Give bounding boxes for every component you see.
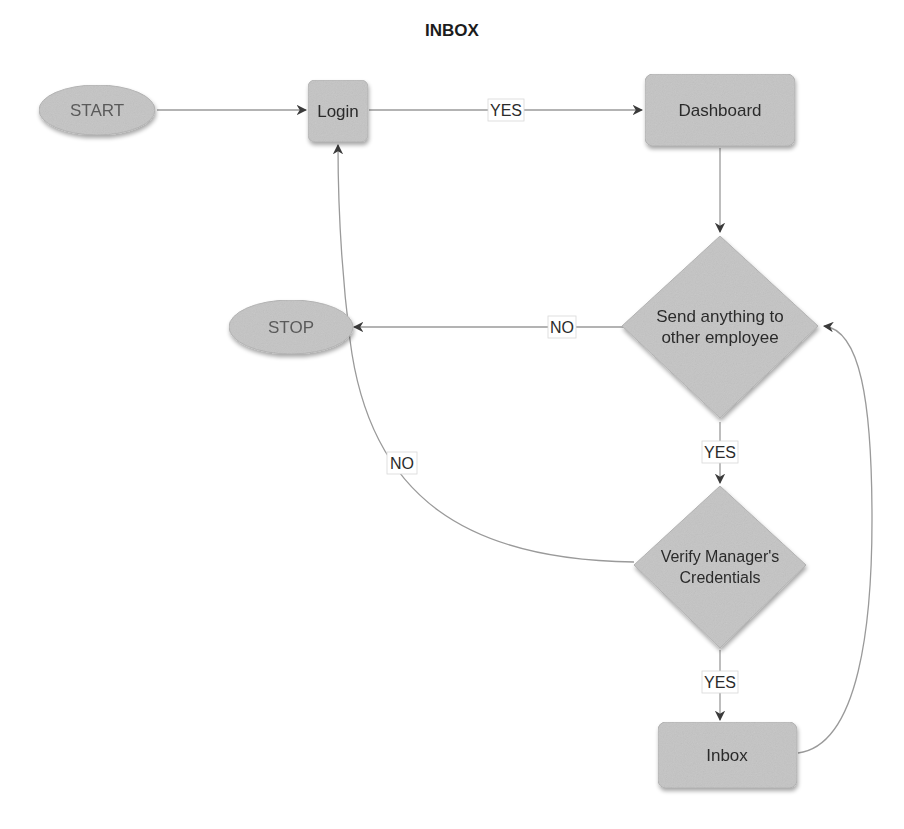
node-send-decision[interactable]: Send anything to other employee [622, 236, 818, 418]
edge-verify-decision-to-inbox: YES [702, 650, 738, 720]
node-login[interactable]: Login [308, 80, 368, 142]
node-inbox-label: Inbox [706, 746, 748, 765]
flowchart-diagram: INBOX YES NO YES NO YES [0, 0, 904, 829]
edge-label-yes: YES [704, 444, 736, 461]
node-stop-label: STOP [268, 318, 314, 337]
node-dashboard-label: Dashboard [678, 101, 761, 120]
edge-label-yes: YES [490, 102, 522, 119]
node-start[interactable]: START [39, 85, 155, 135]
node-login-label: Login [317, 102, 359, 121]
node-stop[interactable]: STOP [229, 300, 353, 354]
edge-send-decision-to-verify-decision: YES [702, 422, 738, 483]
node-dashboard[interactable]: Dashboard [645, 74, 795, 146]
node-verify-decision-label-line2: Credentials [680, 569, 761, 586]
node-send-decision-label-line1: Send anything to [656, 307, 784, 326]
node-verify-decision[interactable]: Verify Manager's Credentials [634, 486, 806, 648]
edge-label-no: NO [550, 319, 574, 336]
edge-verify-decision-to-login: NO [338, 145, 634, 562]
edge-send-decision-to-stop: NO [354, 316, 624, 338]
edge-inbox-to-send-decision [798, 326, 872, 753]
node-verify-decision-label-line1: Verify Manager's [661, 548, 780, 565]
edge-label-no: NO [390, 455, 414, 472]
diagram-title: INBOX [425, 21, 480, 40]
edge-label-yes: YES [704, 674, 736, 691]
node-inbox[interactable]: Inbox [658, 722, 797, 788]
node-start-label: START [70, 101, 124, 120]
node-send-decision-label-line2: other employee [661, 328, 778, 347]
edge-login-to-dashboard: YES [369, 99, 642, 121]
